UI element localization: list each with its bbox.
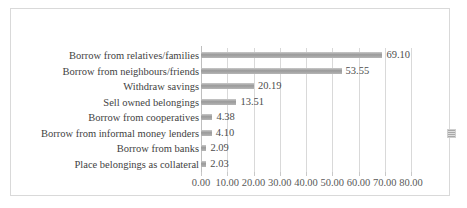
bar[interactable]: [201, 145, 206, 151]
category-label: Borrow from cooperatives: [17, 110, 199, 126]
bar-value-label: 69.10: [386, 47, 410, 62]
bar-row: 20.19: [201, 79, 411, 95]
bar-row: 2.03: [201, 157, 411, 173]
bar-value-label: 4.38: [216, 109, 234, 124]
bar-row: 13.51: [201, 95, 411, 111]
bar-row: 2.09: [201, 141, 411, 157]
x-tick-label: 10.00: [215, 176, 239, 190]
category-label: Borrow from banks: [17, 141, 199, 157]
bar-row: 4.10: [201, 126, 411, 142]
category-label: Sell owned belongings: [17, 95, 199, 111]
x-tick-label: 0.00: [192, 176, 210, 190]
x-tick-label: 70.00: [373, 176, 397, 190]
x-tick-label: 60.00: [347, 176, 371, 190]
bar[interactable]: [201, 130, 212, 136]
plot-area: 69.1053.5520.1913.514.384.102.092.03: [201, 48, 411, 172]
bar[interactable]: [201, 52, 382, 58]
category-label: Withdraw savings: [17, 79, 199, 95]
x-tick-label: 80.00: [399, 176, 423, 190]
bar[interactable]: [201, 99, 236, 105]
x-tick-label: 50.00: [320, 176, 344, 190]
bar-value-label: 13.51: [240, 94, 264, 109]
bar-value-label: 4.10: [216, 125, 234, 140]
legend-color-swatch: [447, 129, 456, 138]
category-label: Borrow from informal money lenders: [17, 126, 199, 142]
x-tick-label: 30.00: [268, 176, 292, 190]
category-label: Place belongings as collateral: [17, 157, 199, 173]
bar-row: 69.10: [201, 48, 411, 64]
category-label: Borrow from relatives/families: [17, 48, 199, 64]
bar[interactable]: [201, 161, 206, 167]
bar[interactable]: [201, 83, 254, 89]
bar[interactable]: [201, 114, 212, 120]
x-tick-label: 20.00: [242, 176, 266, 190]
category-axis-labels: Borrow from relatives/familiesBorrow fro…: [15, 48, 199, 172]
gridline: [411, 48, 412, 172]
bar-value-label: 53.55: [346, 63, 370, 78]
bar-value-label: 20.19: [258, 78, 282, 93]
bar-row: 53.55: [201, 64, 411, 80]
bar-row: 4.38: [201, 110, 411, 126]
bar[interactable]: [201, 68, 342, 74]
bar-value-label: 2.09: [210, 140, 228, 155]
bar-value-label: 2.03: [210, 156, 228, 171]
x-tick-label: 40.00: [294, 176, 318, 190]
category-label: Borrow from neighbours/friends: [17, 64, 199, 80]
chart-container: Borrow from relatives/familiesBorrow fro…: [10, 8, 450, 196]
value-axis-labels: 0.0010.0020.0030.0040.0050.0060.0070.008…: [201, 176, 431, 192]
